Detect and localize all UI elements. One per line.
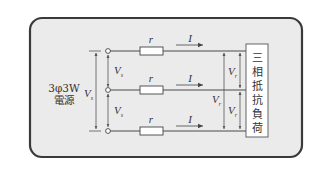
terminal-1: [106, 49, 111, 54]
source-label-name: 電源: [54, 94, 75, 106]
load-label-char-4: 抗: [252, 93, 263, 107]
resistor-3-label: r: [149, 113, 154, 125]
circuit-diagram: 3φ3W 電源 Vs Vs Vs r r r I I I Vr Vr Vr 三 …: [0, 0, 328, 173]
load-label-char-5: 負: [252, 108, 263, 121]
resistor-1-label: r: [149, 33, 154, 45]
resistor-2-label: r: [149, 72, 154, 84]
resistor-1: [140, 47, 163, 55]
source-label-type: 3φ3W: [48, 82, 80, 94]
terminal-2: [106, 88, 111, 93]
load-label-char-6: 荷: [252, 122, 263, 135]
terminal-3: [106, 129, 111, 134]
load-label-char-1: 三: [252, 52, 263, 65]
resistor-2: [140, 86, 163, 94]
load-label-char-3: 抵: [252, 79, 263, 93]
resistor-3: [140, 127, 163, 135]
load-label-char-2: 相: [252, 66, 263, 79]
